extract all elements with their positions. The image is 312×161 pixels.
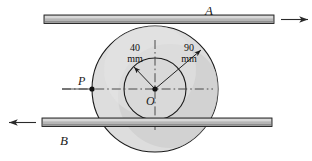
outer-radius-unit: mm [172,54,206,65]
point-p-marker [89,86,94,91]
outer-radius-value: 90 [172,43,206,54]
inner-radius-value: 40 [118,43,152,54]
outer-radius-dimension-label: 90 mm [172,43,206,64]
figure-canvas [0,0,312,161]
bar-b [42,118,272,127]
inner-radius-dimension-label: 40 mm [118,43,152,64]
inner-radius-unit: mm [118,54,152,65]
mechanics-figure: A B P O 40 mm 90 mm [0,0,312,161]
bar-a [44,15,274,24]
